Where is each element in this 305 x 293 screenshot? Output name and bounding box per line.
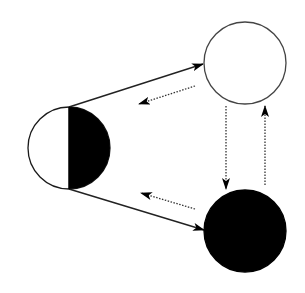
edge-white-to-half-dotted-arrow	[139, 86, 195, 104]
edge-half-to-white-solid-arrow	[69, 64, 203, 107]
node-white	[204, 22, 286, 104]
edge-black-to-half-dotted-arrow	[141, 193, 195, 209]
diagram-canvas	[0, 0, 305, 293]
node-black	[204, 190, 286, 272]
nodes	[28, 22, 286, 272]
edge-half-to-black-solid-arrow	[69, 189, 204, 230]
state-diagram	[0, 0, 305, 293]
node-half	[28, 107, 110, 189]
half-black-fill	[69, 107, 110, 189]
